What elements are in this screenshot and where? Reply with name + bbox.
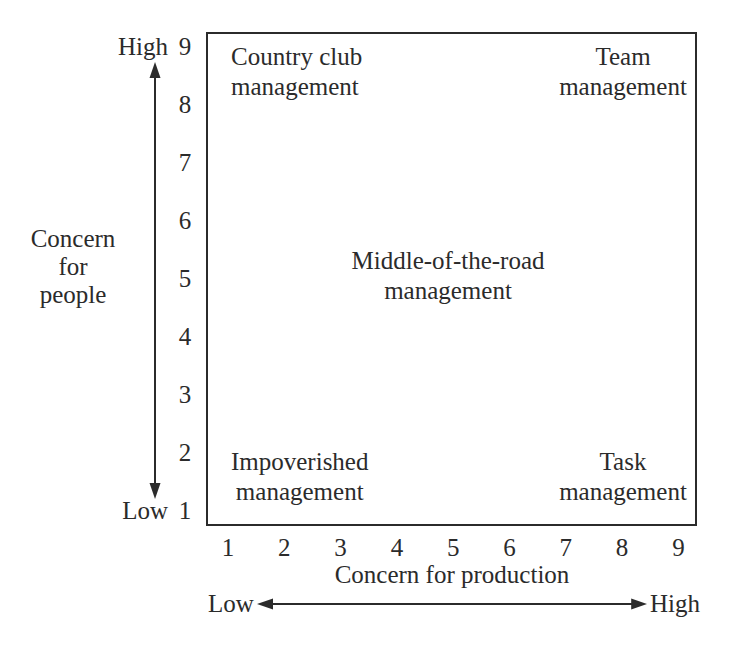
x-axis-high-label: High (650, 590, 700, 618)
x-axis-tick-8: 8 (616, 535, 629, 560)
x-axis-tick-2: 2 (278, 535, 291, 560)
y-axis-title-line: Concern (31, 225, 116, 253)
quadrant-label-line: management (231, 72, 362, 102)
quadrant-label-country-club: Country club management (231, 42, 362, 102)
y-axis-tick-3: 3 (179, 382, 192, 407)
y-axis-low-label: Low (122, 498, 168, 523)
y-axis-tick-9: 9 (179, 34, 192, 59)
y-axis-tick-7: 7 (179, 150, 192, 175)
x-axis-tick-1: 1 (222, 535, 235, 560)
x-axis-tick-5: 5 (447, 535, 460, 560)
x-axis-tick-9: 9 (672, 535, 685, 560)
y-axis-tick-8: 8 (179, 92, 192, 117)
quadrant-label-line: management (231, 477, 368, 507)
y-axis-title: Concern for people (31, 225, 116, 309)
x-axis-tick-7: 7 (560, 535, 573, 560)
y-axis-title-line: people (31, 281, 116, 309)
people-axis-double-arrow-icon (147, 62, 163, 499)
y-axis-tick-6: 6 (179, 208, 192, 233)
quadrant-label-team: Team management (559, 42, 687, 102)
quadrant-label-line: Middle-of-the-road (352, 246, 545, 276)
quadrant-label-impoverished: Impoverished management (231, 447, 368, 507)
managerial-grid: Country club management Team management … (0, 0, 733, 647)
quadrant-label-line: Team (559, 42, 687, 72)
quadrant-label-middle-of-the-road: Middle-of-the-road management (352, 246, 545, 306)
y-axis-tick-5: 5 (179, 266, 192, 291)
y-axis-title-line: for (31, 253, 116, 281)
quadrant-label-line: Task (559, 447, 687, 477)
production-axis-double-arrow-icon (257, 596, 647, 612)
x-axis-tick-3: 3 (334, 535, 347, 560)
x-axis-tick-4: 4 (391, 535, 404, 560)
y-axis-tick-1: 1 (179, 498, 192, 523)
y-axis-high-label: High (118, 34, 168, 59)
x-axis-tick-6: 6 (503, 535, 516, 560)
quadrant-label-line: Country club (231, 42, 362, 72)
quadrant-label-task: Task management (559, 447, 687, 507)
quadrant-label-line: management (352, 276, 545, 306)
quadrant-label-line: management (559, 477, 687, 507)
x-axis-title: Concern for production (335, 560, 570, 590)
y-axis-tick-2: 2 (179, 440, 192, 465)
quadrant-label-line: management (559, 72, 687, 102)
y-axis-tick-4: 4 (179, 324, 192, 349)
x-axis-range-row: Low High (208, 590, 700, 618)
x-axis-low-label: Low (208, 590, 254, 618)
quadrant-label-line: Impoverished (231, 447, 368, 477)
